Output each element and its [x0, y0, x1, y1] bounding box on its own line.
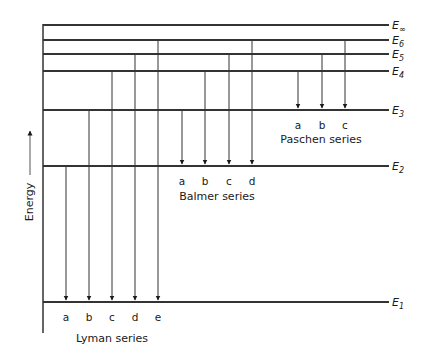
- transition-label: a: [179, 175, 185, 187]
- level-label-e1: E1: [392, 296, 404, 311]
- energy-level-diagram: E∞E6E5E4E3E2E1 abcdeLyman seriesabcdBalm…: [0, 0, 434, 348]
- transition-label: c: [226, 175, 232, 187]
- transition-label: d: [249, 175, 256, 187]
- transition-label: a: [63, 311, 69, 323]
- level-label-e6: E6: [392, 34, 404, 49]
- series-label: Balmer series: [179, 190, 255, 203]
- transition-label: b: [319, 119, 326, 131]
- series-label: Paschen series: [280, 133, 362, 146]
- transitions: abcdeLyman seriesabcdBalmer seriesabcPas…: [63, 41, 362, 345]
- transition-label: e: [155, 311, 161, 323]
- paschen-series: abcPaschen series: [280, 41, 362, 146]
- level-label-e3: E3: [392, 104, 404, 119]
- level-label-einf: E∞: [392, 19, 406, 34]
- energy-levels: E∞E6E5E4E3E2E1: [43, 19, 406, 311]
- level-label-e2: E2: [392, 160, 404, 175]
- transition-label: b: [86, 311, 93, 323]
- balmer-series: abcdBalmer series: [179, 41, 256, 203]
- transition-label: d: [132, 311, 139, 323]
- energy-axis-arrow: Energy: [23, 131, 36, 221]
- level-label-e5: E5: [392, 48, 404, 63]
- energy-axis-label: Energy: [23, 182, 36, 221]
- level-label-e4: E4: [392, 65, 404, 80]
- transition-label: a: [295, 119, 301, 131]
- transition-label: b: [202, 175, 209, 187]
- transition-label: c: [109, 311, 115, 323]
- lyman-series: abcdeLyman series: [63, 41, 161, 345]
- transition-label: c: [342, 119, 348, 131]
- series-label: Lyman series: [76, 332, 148, 345]
